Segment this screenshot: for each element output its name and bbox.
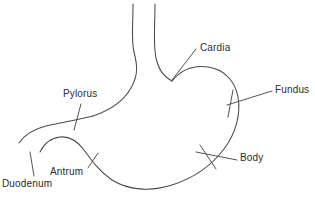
- label-fundus: Fundus: [275, 84, 309, 95]
- pylorus-tick-mark: [74, 104, 81, 130]
- cardia-leader-line: [172, 49, 196, 80]
- body-leader-line: [196, 152, 237, 160]
- label-cardia: Cardia: [200, 42, 230, 53]
- label-pylorus: Pylorus: [63, 88, 97, 99]
- label-body: Body: [240, 152, 263, 163]
- fundus-leader-line: [227, 91, 272, 105]
- lesser-curvature-path: [19, 116, 93, 143]
- esophagus-right-wall-path: [154, 4, 172, 81]
- label-antrum: Antrum: [50, 166, 83, 177]
- diagram-canvas: [0, 0, 315, 201]
- esophagus-left-wall-path: [93, 4, 137, 116]
- label-duodenum: Duodenum: [2, 178, 52, 189]
- duodenum-leader-line: [30, 152, 34, 176]
- stomach-diagram: Cardia Fundus Body Pylorus Antrum Duoden…: [0, 0, 315, 201]
